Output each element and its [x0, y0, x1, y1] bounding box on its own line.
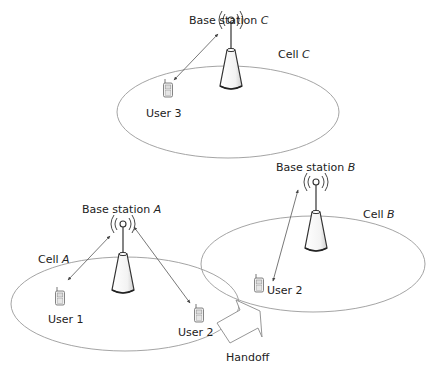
cell-c-label: Cell C: [278, 48, 310, 61]
user-1-phone-icon: [56, 287, 65, 305]
link-user2-station-a: [134, 227, 190, 303]
user-3-label: User 3: [146, 107, 182, 120]
cell-c: Base station C Cell C User 3: [117, 11, 339, 158]
cell-b-label: Cell B: [363, 208, 395, 221]
cell-a-label: Cell A: [38, 253, 70, 266]
user-2-a-label: User 2: [178, 326, 214, 339]
base-station-b-tower-icon: [304, 173, 328, 251]
handoff: Handoff: [217, 300, 270, 364]
cell-b: Base station B Cell B User 2: [201, 161, 425, 312]
user-2-a-phone-icon: [195, 304, 204, 322]
handoff-arrow-icon: [217, 300, 262, 343]
base-station-a-label: Base station A: [82, 203, 161, 216]
user-2-b-label: User 2: [267, 284, 303, 297]
user-1-label: User 1: [48, 313, 84, 326]
handoff-label: Handoff: [226, 351, 270, 364]
link-user2-station-b: [273, 190, 298, 281]
cellular-network-diagram: Base station C Cell C User 3 Base statio…: [0, 0, 435, 370]
user-2-b-phone-icon: [255, 274, 264, 292]
base-station-b-label: Base station B: [276, 161, 355, 174]
user-3-phone-icon: [164, 79, 173, 97]
base-station-c-label: Base station C: [189, 14, 269, 27]
base-station-a-tower-icon: [111, 215, 135, 293]
link-user3-station-c: [174, 34, 218, 80]
